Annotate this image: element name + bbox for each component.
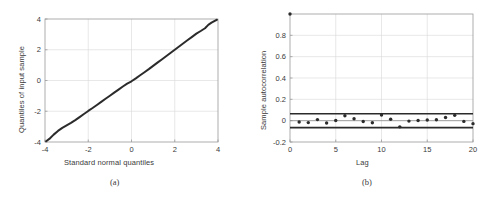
x-tick-label: 15 — [423, 145, 431, 154]
x-tick-label: 10 — [377, 145, 385, 154]
acf-data-point — [297, 120, 300, 123]
y-tick-label: -0.2 — [273, 138, 286, 147]
x-tick-label: 0 — [129, 145, 133, 154]
y-tick-label: -4 — [34, 138, 41, 147]
y-tick-label: 0.6 — [276, 52, 286, 61]
figure-container: -4-2024-4-2024 Quantiles of input sample… — [0, 0, 490, 198]
acf-data-point — [398, 125, 401, 128]
acf-data-point — [453, 114, 456, 117]
x-tick-label: 2 — [173, 145, 177, 154]
acf-data-point — [435, 118, 438, 121]
acf-data-point — [325, 121, 328, 124]
x-tick-label: 5 — [334, 145, 338, 154]
y-tick-label: 0.8 — [276, 31, 286, 40]
x-tick-label: 4 — [216, 145, 220, 154]
acf-data-point — [316, 118, 319, 121]
x-tick-label: 20 — [469, 145, 477, 154]
y-tick-label: 2 — [37, 45, 41, 54]
acf-data-point — [416, 119, 419, 122]
y-tick-label: 4 — [37, 15, 41, 24]
acf-data-point — [307, 121, 310, 124]
acf-data-point — [444, 116, 447, 119]
acf-data-point — [426, 118, 429, 121]
y-tick-label: 0.2 — [276, 95, 286, 104]
panel-a-qq-plot: -4-2024-4-2024 Quantiles of input sample… — [0, 0, 245, 198]
panel-a-x-axis-label: Standard normal quantiles — [64, 158, 154, 167]
y-tick-label: -2 — [34, 107, 41, 116]
panel-b-svg: 05101520-0.200.20.40.60.8 — [245, 0, 490, 198]
acf-data-point — [334, 119, 337, 122]
panel-a-caption: (a) — [110, 177, 119, 187]
y-tick-label: 0 — [37, 76, 41, 85]
y-tick-label: 0 — [282, 116, 286, 125]
acf-data-point — [471, 122, 474, 125]
x-tick-label: -2 — [85, 145, 92, 154]
panel-b-y-axis-label: Sample autocorrelation — [259, 51, 268, 130]
panel-a-y-axis-label: Quantiles of input sample — [17, 46, 26, 133]
acf-data-point — [362, 120, 365, 123]
panel-b-x-axis-label: Lag — [356, 158, 369, 167]
panel-b-acf-plot: 05101520-0.200.20.40.60.8 Sample autocor… — [245, 0, 490, 198]
acf-data-point — [462, 120, 465, 123]
acf-data-point — [380, 113, 383, 116]
x-tick-label: -4 — [42, 145, 49, 154]
panel-b-caption: (b) — [362, 177, 372, 187]
acf-data-point — [407, 119, 410, 122]
acf-data-point — [288, 12, 291, 15]
acf-data-point — [352, 117, 355, 120]
acf-data-point — [371, 121, 374, 124]
x-tick-label: 0 — [288, 145, 292, 154]
acf-data-point — [343, 114, 346, 117]
panel-a-svg: -4-2024-4-2024 — [0, 0, 245, 198]
acf-data-point — [389, 118, 392, 121]
y-tick-label: 0.4 — [276, 74, 286, 83]
